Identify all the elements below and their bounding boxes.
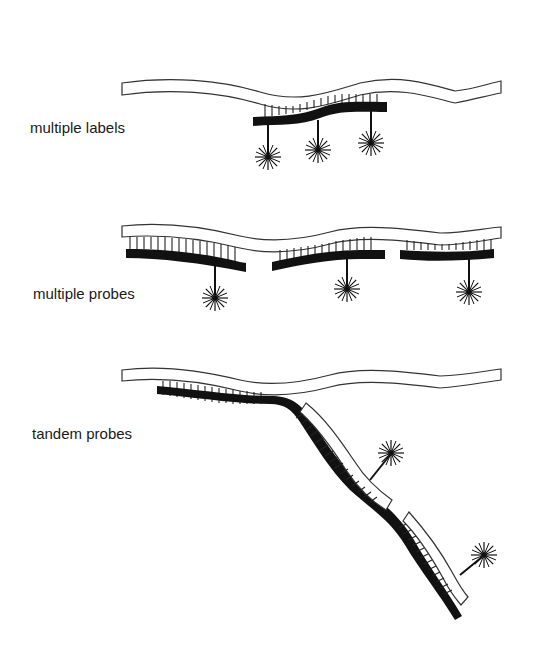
panel-multiple-labels [122,79,501,170]
panel-multiple-probes [122,224,501,311]
fluorescent-label-icon [456,279,482,305]
probe-strand [272,250,385,271]
fluorescent-label-icon [471,542,497,568]
fluorescent-label-icon [202,285,228,311]
fluorescent-label-icon [255,144,281,170]
diagram-canvas: multiple labels multiple probes tandem p… [0,0,545,656]
fluorescent-label-icon [305,137,331,163]
target-strand [122,79,501,109]
fluorescent-label-icon [378,440,404,466]
probe-strand [400,249,494,261]
fluorescent-label-icon [358,130,384,156]
panel-tandem-probes [122,368,501,620]
fluorescent-label-icon [334,276,360,302]
secondary-probe-strand [300,403,392,510]
secondary-probe-strand [403,512,468,605]
